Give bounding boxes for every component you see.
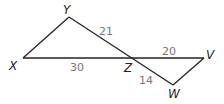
point-label-w: W — [168, 87, 181, 101]
point-label-y: Y — [63, 3, 72, 17]
point-label-v: V — [206, 48, 215, 62]
segment-vw — [173, 58, 204, 85]
point-label-x: X — [8, 59, 18, 73]
triangle-diagram: X Y Z V W 21 30 20 14 — [0, 0, 224, 104]
length-zw: 14 — [139, 74, 153, 87]
segment-xy — [23, 17, 69, 58]
length-yz: 21 — [99, 25, 113, 38]
segment-yw — [69, 17, 173, 85]
length-xz: 30 — [70, 61, 84, 74]
length-zv: 20 — [162, 45, 176, 58]
point-label-z: Z — [123, 61, 133, 75]
